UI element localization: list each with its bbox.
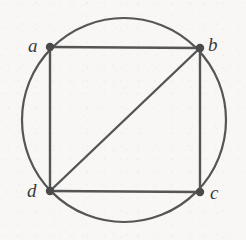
vertex-label-c: c xyxy=(210,183,218,202)
vertex-label-a: a xyxy=(28,36,38,55)
vertex-label-b: b xyxy=(208,35,218,54)
geometry-figure: a b c d xyxy=(0,0,246,240)
edge-c-d xyxy=(50,191,200,192)
diagonal-d-b xyxy=(50,48,200,191)
vertex-dot-b xyxy=(196,44,204,52)
edge-group xyxy=(50,47,200,192)
vertex-dot-a xyxy=(46,43,54,51)
vertex-dot-c xyxy=(196,188,204,196)
edge-a-b xyxy=(50,47,200,48)
vertex-label-d: d xyxy=(27,181,37,200)
vertex-dot-d xyxy=(46,187,54,195)
